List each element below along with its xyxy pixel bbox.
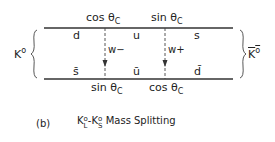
right-brace-icon [240, 30, 246, 78]
bottom-left-coupling: sin θC [91, 82, 123, 96]
antiquark-u: ū [133, 66, 140, 77]
w-minus-label: w− [108, 45, 125, 55]
quark-s: s [194, 30, 200, 41]
top-right-coupling: sin θC [151, 12, 183, 26]
antiquark-d: d̄ [194, 66, 201, 77]
quark-d: d [73, 30, 80, 41]
caption-title: KoL-KoS Mass Splitting [77, 116, 176, 130]
caption-label: (b) [36, 119, 50, 129]
w-plus-arrow-icon [163, 60, 168, 67]
top-left-coupling: cos θC [86, 12, 120, 26]
w-minus-arrow-icon [103, 60, 108, 67]
quark-u: u [133, 30, 140, 41]
w-plus-label: w+ [168, 45, 185, 55]
bottom-right-coupling: cos θC [149, 82, 183, 96]
k0bar-label: Ko [248, 47, 260, 60]
k0-label: Ko [14, 47, 26, 60]
antiquark-s: s̄ [73, 66, 79, 77]
left-brace-icon [31, 30, 37, 78]
